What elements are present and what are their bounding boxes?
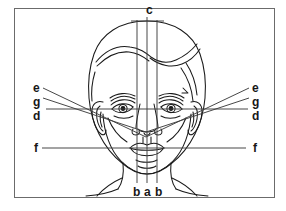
label-b-bottom-right: b: [155, 186, 162, 198]
neck-left: [118, 163, 123, 189]
eye-right-pupil: [169, 107, 173, 111]
label-f-left: f: [34, 142, 38, 154]
eye-left-pupil: [121, 107, 125, 111]
label-e-right: e: [252, 82, 259, 94]
cheek-left: [108, 118, 127, 142]
label-e-left: e: [33, 82, 40, 94]
hair-strand-5: [92, 72, 95, 101]
guide-diagonal-g-right: [146, 98, 249, 132]
label-b-bottom-left: b: [133, 186, 140, 198]
guide-lines-group: [42, 17, 249, 183]
shoulder-right: [176, 189, 208, 196]
neck-right: [171, 163, 176, 189]
trapezius-left: [97, 178, 122, 196]
label-d-left: d: [33, 110, 40, 122]
label-g-left: g: [33, 96, 40, 108]
hair-tip-arrow: [182, 88, 188, 93]
label-g-right: g: [252, 96, 259, 108]
lip-shadow: [136, 160, 157, 162]
label-c-top: c: [146, 4, 153, 16]
label-f-right: f: [253, 142, 257, 154]
label-d-right: d: [252, 110, 259, 122]
diagram-canvas: c e g d f e g d f b a b: [0, 0, 286, 211]
trapezius-right: [172, 178, 197, 196]
guide-diagonal-e-left: [43, 88, 146, 137]
face-proportion-drawing: [0, 0, 286, 211]
shoulder-left: [86, 189, 118, 196]
hair-strand-2: [150, 49, 200, 66]
eye-left-underline: [114, 116, 133, 118]
label-a-bottom-center: a: [144, 186, 151, 198]
eye-right-underline: [161, 116, 180, 118]
ear-left-inner2: [100, 112, 102, 127]
